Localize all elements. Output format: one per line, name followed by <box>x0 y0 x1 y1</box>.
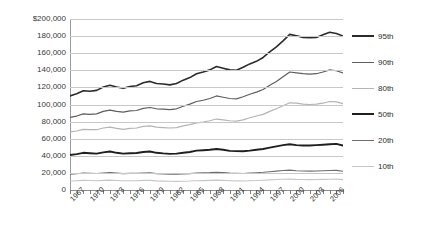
legend-item-10th[interactable]: 10th <box>352 161 394 171</box>
legend-item-90th[interactable]: 90th <box>352 57 394 67</box>
gridline <box>70 19 343 20</box>
gridline <box>70 156 343 157</box>
legend-swatch-50th <box>352 113 374 115</box>
legend-item-95th[interactable]: 95th <box>352 31 394 41</box>
gridline <box>70 173 343 174</box>
legend-swatch-10th <box>352 166 374 167</box>
y-tick-label: 100,000 <box>2 101 66 109</box>
y-axis-labels: $200,000180,000160,000140,000120,000100,… <box>0 0 66 234</box>
legend-item-20th[interactable]: 20th <box>352 135 394 145</box>
y-tick-label: 60,000 <box>2 135 66 143</box>
y-tick-label: 160,000 <box>2 49 66 57</box>
series-line-50th <box>70 144 343 155</box>
legend-label-50th: 50th <box>378 110 394 119</box>
series-line-90th <box>70 70 343 117</box>
legend-swatch-95th <box>352 35 374 37</box>
chart-legend: 95th90th80th50th20th10th <box>352 26 423 196</box>
plot-area <box>70 19 343 190</box>
gridline <box>70 36 343 37</box>
y-tick-label: 20,000 <box>2 169 66 177</box>
series-line-10th <box>70 179 343 181</box>
y-tick-label: 0 <box>2 186 66 194</box>
legend-label-95th: 95th <box>378 32 394 41</box>
legend-swatch-80th <box>352 88 374 89</box>
gridline <box>70 139 343 140</box>
y-tick-label: 180,000 <box>2 32 66 40</box>
legend-label-10th: 10th <box>378 162 394 171</box>
gridline <box>70 70 343 71</box>
legend-swatch-20th <box>352 140 374 141</box>
legend-item-50th[interactable]: 50th <box>352 109 394 119</box>
y-tick-label: 140,000 <box>2 66 66 74</box>
y-tick-label: 80,000 <box>2 118 66 126</box>
legend-item-80th[interactable]: 80th <box>352 83 394 93</box>
legend-label-20th: 20th <box>378 136 394 145</box>
gridline <box>70 122 343 123</box>
legend-label-90th: 90th <box>378 58 394 67</box>
gridline <box>70 105 343 106</box>
legend-swatch-90th <box>352 62 374 63</box>
y-tick-label: 40,000 <box>2 152 66 160</box>
chart-container: $200,000180,000160,000140,000120,000100,… <box>0 0 423 234</box>
y-tick-label: $200,000 <box>2 15 66 23</box>
series-line-80th <box>70 102 343 132</box>
y-tick-label: 120,000 <box>2 83 66 91</box>
gridline <box>70 53 343 54</box>
gridline <box>70 87 343 88</box>
series-line-95th <box>70 32 343 96</box>
legend-label-80th: 80th <box>378 84 394 93</box>
